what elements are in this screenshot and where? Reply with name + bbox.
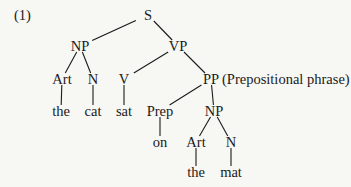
tree-node-sat: sat	[116, 103, 132, 119]
example-number: (1)	[14, 7, 31, 24]
tree-edge-art1-the1	[61, 85, 62, 105]
tree-node-art1: Art	[52, 71, 71, 87]
tree-node-n2: N	[226, 134, 237, 150]
tree-canvas: SNPVPArtNVPPthecatsatPrepNPonArtNthemat …	[0, 0, 351, 187]
tree-node-art2: Art	[186, 134, 205, 150]
tree-node-the1: the	[52, 103, 70, 119]
tree-node-on: on	[153, 134, 168, 150]
tree-node-pp: PP	[203, 71, 219, 87]
tree-edge-vp-v	[134, 52, 168, 73]
tree-edge-pp-prep	[170, 85, 202, 105]
tree-node-mat: mat	[220, 164, 242, 180]
pp-annotation: (Prepositional phrase)	[222, 71, 350, 88]
tree-node-np1: NP	[71, 38, 90, 54]
tree-edge-s-np1	[92, 21, 136, 41]
tree-node-n1: N	[88, 71, 99, 87]
tree-node-vp: VP	[169, 38, 188, 54]
tree-node-the2: the	[187, 164, 205, 180]
tree-edge-pp-np2	[212, 85, 214, 105]
tree-node-cat: cat	[85, 103, 102, 119]
tree-node-v: V	[119, 71, 130, 87]
tree-node-np2: NP	[205, 103, 224, 119]
syntax-tree-diagram: SNPVPArtNVPPthecatsatPrepNPonArtNthemat …	[0, 0, 351, 187]
tree-node-prep: Prep	[147, 103, 174, 119]
tree-edge-vp-pp	[184, 52, 205, 73]
tree-node-s: S	[144, 7, 152, 23]
tree-labels: SNPVPArtNVPPthecatsatPrepNPonArtNthemat	[52, 7, 242, 180]
tree-edge-np1-art1	[65, 52, 76, 73]
tree-edge-np1-n1	[82, 52, 90, 73]
